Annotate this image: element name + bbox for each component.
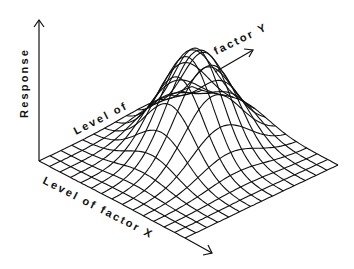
mesh-line-x: [164, 154, 317, 227]
mesh-line-x: [175, 160, 328, 233]
response-label: Response: [18, 48, 30, 118]
response-surface-diagram: Response Level of factor Y Level of fact…: [0, 0, 354, 269]
mesh-line-x: [102, 50, 255, 194]
surface-mesh: [39, 48, 338, 238]
factor-x-axis: [185, 238, 212, 255]
response-axis: [34, 20, 44, 161]
mesh-line-y: [39, 161, 185, 238]
factor-y-label-part2: factor Y: [212, 20, 270, 56]
mesh-line-y: [159, 65, 305, 180]
